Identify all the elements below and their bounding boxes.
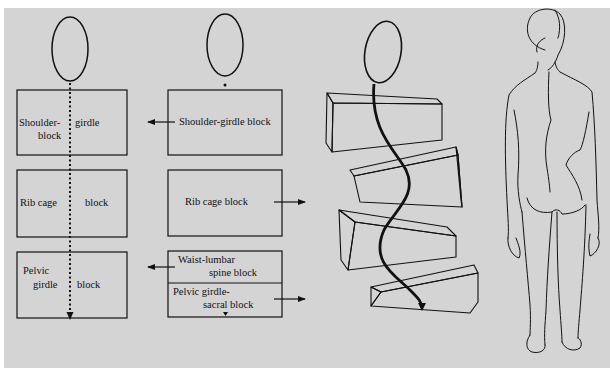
panel-c-rotated-blocks [326,18,478,313]
panel-d-human-figure-back-view [505,9,599,352]
left-shoulder-arm [505,73,535,238]
small-down-marker [223,312,228,316]
label-rib-cage-block: Rib cage block [185,196,248,208]
label-rib-cage-left: Rib cage [20,197,57,209]
spine-line-curved [546,72,551,192]
left-torso-inner [514,110,522,212]
hair-lines [537,10,560,52]
label-pelvic-girdle-left: Pelvic [23,265,49,277]
wedge-block-3 [339,210,456,270]
head-ellipse [207,14,243,76]
buttocks [527,198,585,214]
label-pelvic-girdle-dash: Pelvic girdle- [173,286,230,298]
right-shoulder-arm [560,72,599,238]
head-ellipse [52,17,88,81]
right-torso-inner [566,112,589,200]
wedge-block-1 [326,93,442,152]
center-line-arrowhead [67,312,74,320]
label-shoulder-girdle-block: Shoulder-girdle block [179,116,271,128]
neck-dot [224,84,227,87]
label-pelvic-girdle-left-2: girdle [33,279,58,291]
label-shoulder-girdle-right: girdle [75,117,100,129]
label-pelvic-girdle-right: block [77,279,100,291]
left-leg-outer [522,212,530,335]
label-shoulder-girdle-left-2: block [38,130,61,142]
label-waist-lumbar: Waist-lumbar [178,254,235,266]
neck-left [535,62,538,73]
right-leg-outer [578,205,586,338]
neck-right [555,62,560,72]
label-rib-cage-right: block [85,197,108,209]
left-leg-inner [545,212,552,345]
spine-curve-arrow [374,84,422,308]
diagram-canvas [0,0,610,368]
left-hand [508,238,520,258]
right-leg-inner [557,212,562,342]
left-foot [527,335,545,353]
label-sacral-block: sacral block [203,299,253,311]
right-foot [562,338,581,350]
label-shoulder-girdle-left: Shoulder- [19,117,60,129]
head-ellipse [360,18,406,85]
label-spine-block: spine block [209,267,257,279]
